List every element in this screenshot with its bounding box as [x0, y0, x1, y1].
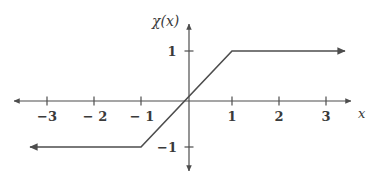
- x-tick-label-pos3: 3: [321, 110, 330, 123]
- x-axis-label: x: [358, 107, 365, 120]
- y-axis-function-label: χ(x): [152, 14, 179, 28]
- x-tick-label-neg1: − 1: [130, 110, 154, 123]
- x-tick-label-pos2: 2: [274, 110, 283, 123]
- chart-figure: χ(x) x −3 − 2 − 1 1 2 3 1 −1: [0, 0, 382, 177]
- y-tick-label-pos1: 1: [167, 45, 176, 58]
- x-tick-label-neg3: −3: [37, 110, 57, 123]
- x-tick-label-pos1: 1: [227, 110, 236, 123]
- x-tick-label-neg2: − 2: [83, 110, 107, 123]
- y-tick-label-neg1: −1: [157, 141, 177, 154]
- chi-function-curve: [30, 51, 345, 147]
- plot-canvas: [0, 0, 382, 177]
